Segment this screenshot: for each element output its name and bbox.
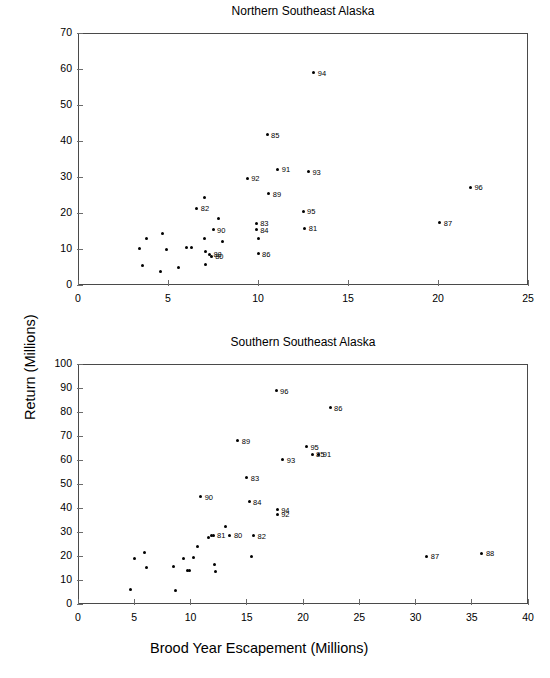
data-point	[143, 551, 146, 554]
figure-canvas: Return (Millions) Northern Southeast Ala…	[0, 0, 550, 678]
x-tick-label: 20	[423, 292, 453, 304]
data-point-label: 95	[307, 207, 315, 216]
chart-title-northern: Northern Southeast Alaska	[78, 4, 528, 18]
data-point-label: 91	[323, 450, 331, 459]
y-tick-mark	[77, 580, 83, 581]
data-point-label: 81	[217, 531, 225, 540]
data-point	[276, 508, 279, 511]
y-tick-label: 70	[38, 26, 72, 38]
data-point	[266, 133, 269, 136]
x-tick-label: 30	[401, 611, 431, 623]
data-point-label: 90	[217, 226, 225, 235]
x-tick-label: 20	[288, 611, 318, 623]
data-point-label: 85	[271, 131, 279, 140]
x-tick-mark	[528, 280, 529, 286]
x-axis-title: Brood Year Escapement (Millions)	[150, 640, 368, 656]
data-point	[311, 453, 314, 456]
y-tick-label: 10	[38, 242, 72, 254]
y-tick-mark	[77, 436, 83, 437]
data-point	[302, 210, 305, 213]
y-tick-mark	[77, 105, 83, 106]
y-tick-label: 80	[38, 405, 72, 417]
y-tick-label: 50	[38, 477, 72, 489]
x-tick-label: 35	[457, 611, 487, 623]
data-point-label: 93	[312, 168, 320, 177]
data-point	[221, 240, 224, 243]
y-tick-label: 40	[38, 501, 72, 513]
y-tick-label: 30	[38, 170, 72, 182]
data-point-label: 80	[234, 531, 242, 540]
data-point	[257, 252, 260, 255]
data-point-label: 96	[280, 387, 288, 396]
data-point	[469, 186, 472, 189]
data-point	[138, 247, 141, 250]
y-tick-label: 60	[38, 62, 72, 74]
data-point-label: 92	[281, 510, 289, 519]
x-tick-label: 25	[513, 292, 543, 304]
x-tick-mark	[303, 599, 304, 605]
x-tick-label: 15	[232, 611, 262, 623]
y-tick-label: 0	[38, 597, 72, 609]
data-point	[246, 177, 249, 180]
x-tick-label: 15	[333, 292, 363, 304]
y-tick-label: 70	[38, 429, 72, 441]
y-tick-mark	[77, 249, 83, 250]
y-tick-label: 10	[38, 573, 72, 585]
x-tick-mark	[258, 280, 259, 286]
x-tick-label: 5	[119, 611, 149, 623]
y-tick-mark	[77, 412, 83, 413]
y-tick-mark	[77, 388, 83, 389]
y-tick-mark	[77, 460, 83, 461]
data-point	[185, 246, 188, 249]
x-tick-mark	[415, 599, 416, 605]
plot-area-northern	[78, 33, 528, 285]
x-tick-label: 0	[63, 292, 93, 304]
y-tick-mark	[77, 285, 83, 286]
y-tick-label: 20	[38, 206, 72, 218]
x-tick-label: 5	[153, 292, 183, 304]
data-point	[165, 248, 168, 251]
y-tick-mark	[77, 213, 83, 214]
data-point	[224, 525, 227, 528]
y-tick-label: 30	[38, 525, 72, 537]
y-axis-title: Return (Millions)	[22, 314, 38, 420]
data-point-label: 82	[201, 204, 209, 213]
data-point-label: 90	[205, 493, 213, 502]
data-point	[214, 570, 217, 573]
x-tick-mark	[438, 280, 439, 286]
x-tick-mark	[190, 599, 191, 605]
y-tick-mark	[77, 604, 83, 605]
data-point-label: 91	[282, 165, 290, 174]
data-point	[255, 222, 258, 225]
data-point-label: 89	[242, 437, 250, 446]
x-tick-mark	[246, 599, 247, 605]
y-tick-mark	[77, 484, 83, 485]
y-tick-label: 40	[38, 134, 72, 146]
data-point-label: 94	[318, 69, 326, 78]
y-tick-label: 100	[38, 357, 72, 369]
data-point-label: 82	[258, 532, 266, 541]
data-point-label: 87	[431, 552, 439, 561]
x-tick-label: 10	[243, 292, 273, 304]
y-tick-label: 0	[38, 278, 72, 290]
x-tick-mark	[471, 599, 472, 605]
x-tick-mark	[359, 599, 360, 605]
x-tick-label: 25	[344, 611, 374, 623]
data-point	[145, 237, 148, 240]
y-tick-mark	[77, 177, 83, 178]
x-tick-label: 0	[63, 611, 93, 623]
data-point-label: 80	[215, 252, 223, 261]
x-tick-mark	[168, 280, 169, 286]
x-tick-mark	[348, 280, 349, 286]
data-point	[329, 406, 332, 409]
y-tick-mark	[77, 364, 83, 365]
data-point-label: 96	[474, 183, 482, 192]
data-point	[203, 196, 206, 199]
data-point	[161, 232, 164, 235]
data-point-label: 84	[260, 226, 268, 235]
y-tick-mark	[77, 532, 83, 533]
data-point-label: 87	[444, 219, 452, 228]
data-point	[248, 500, 251, 503]
x-tick-mark	[528, 599, 529, 605]
data-point	[276, 513, 279, 516]
